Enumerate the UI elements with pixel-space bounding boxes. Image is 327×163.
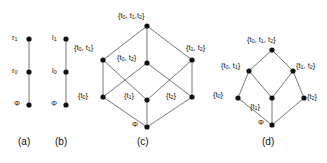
node-label-a_bot: Φ xyxy=(14,100,20,108)
lattice-edge xyxy=(272,98,304,125)
lattice-node-c_bot xyxy=(144,124,149,129)
lattice-node-c_t1 xyxy=(144,97,149,102)
panel-caption-d: (d) xyxy=(262,136,274,147)
node-label-d_t1: {t1} xyxy=(250,103,260,111)
figure-canvas: r1r0Φ(a)l1l0Φ(b){t0, t1,t2}{t0, t1}{t0, … xyxy=(0,0,327,163)
lattice-edge xyxy=(249,50,272,71)
node-label-d_top: {t0, t1, t2} xyxy=(247,36,276,44)
node-label-d_t0: {t0} xyxy=(213,91,223,99)
node-label-c_t0t1: {t0, t1} xyxy=(74,44,93,52)
lattice-edges-layer xyxy=(0,0,327,163)
lattice-node-c_t0t2 xyxy=(144,60,149,65)
node-label-d_t0t1: {t0, t1} xyxy=(221,62,240,70)
lattice-node-d_bot xyxy=(269,122,274,127)
lattice-node-d_top xyxy=(269,47,274,52)
lattice-edge xyxy=(272,71,293,98)
lattice-edge xyxy=(249,71,272,98)
lattice-node-d_t2 xyxy=(301,95,306,100)
node-label-c_t1: {t1} xyxy=(124,92,134,100)
node-label-c_top: {t0, t1,t2} xyxy=(118,12,145,20)
node-label-b_mid: l0 xyxy=(52,67,57,75)
lattice-node-c_t1t2 xyxy=(189,57,194,62)
lattice-edge xyxy=(147,97,192,127)
lattice-node-b_mid xyxy=(63,69,68,74)
lattice-node-c_t0 xyxy=(100,94,105,99)
lattice-edge xyxy=(238,71,249,98)
node-label-c_t2: {t2} xyxy=(166,92,176,100)
panel-caption-b: (b) xyxy=(55,136,67,147)
node-label-d_bot: Φ xyxy=(258,119,264,127)
node-label-d_t1t2: {t1, t2} xyxy=(296,62,315,70)
node-label-a_mid: r0 xyxy=(12,67,18,75)
node-label-b_bot: Φ xyxy=(51,100,57,108)
lattice-node-a_top xyxy=(26,36,31,41)
lattice-edge xyxy=(293,71,304,98)
panel-caption-c: (c) xyxy=(137,136,149,147)
lattice-node-d_t1 xyxy=(269,95,274,100)
node-label-c_t1t2: {t1, t2} xyxy=(186,44,205,52)
node-label-c_t0: {t0} xyxy=(78,92,88,100)
node-label-d_t2: {t2} xyxy=(307,93,317,101)
lattice-edge xyxy=(103,97,147,127)
node-label-c_bot: Φ xyxy=(132,121,138,129)
lattice-node-a_mid xyxy=(26,69,31,74)
lattice-node-d_t0t1 xyxy=(246,68,251,73)
lattice-edge xyxy=(272,50,293,71)
node-label-b_top: l1 xyxy=(52,34,57,42)
lattice-node-c_top xyxy=(144,23,149,28)
panel-caption-a: (a) xyxy=(18,136,30,147)
lattice-node-a_bot xyxy=(26,102,31,107)
lattice-node-d_t1t2 xyxy=(290,68,295,73)
lattice-node-b_top xyxy=(63,36,68,41)
lattice-node-c_t2 xyxy=(189,94,194,99)
lattice-node-c_t0t1 xyxy=(100,57,105,62)
node-label-a_top: r1 xyxy=(12,34,18,42)
lattice-node-b_bot xyxy=(63,102,68,107)
lattice-node-d_t0 xyxy=(235,95,240,100)
node-label-c_t0t2: {t0, t2} xyxy=(117,54,136,62)
